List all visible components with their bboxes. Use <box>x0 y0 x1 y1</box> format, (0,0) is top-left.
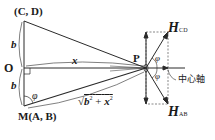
label-x: x <box>72 55 78 66</box>
label-phi-lower: φ <box>155 72 160 81</box>
axis-arrow-head <box>163 66 168 70</box>
label-o: O <box>4 62 13 74</box>
b-upper-brace <box>19 22 22 67</box>
label-h-ab: HAB <box>168 105 188 119</box>
label-p: P <box>133 53 140 64</box>
x-brace <box>26 62 144 66</box>
label-cd: (C, D) <box>14 6 43 17</box>
p-arrow-up-head <box>144 32 148 38</box>
label-b-upper: b <box>11 39 17 50</box>
line-cd-to-p <box>24 21 146 68</box>
right-angle-marker <box>24 68 30 74</box>
p-arrow-down-head <box>144 98 148 104</box>
label-hypotenuse: √b2 + x2 <box>78 95 113 107</box>
label-b-lower: b <box>11 80 17 91</box>
label-phi-m: φ <box>32 91 38 101</box>
axis-label-leader <box>168 70 176 80</box>
label-phi-upper: φ <box>155 54 160 63</box>
label-m: M(A, B) <box>18 111 57 122</box>
b-lower-brace <box>19 69 22 105</box>
label-h-cd: HCD <box>168 21 188 35</box>
label-center-axis: 中心軸 <box>178 75 205 84</box>
